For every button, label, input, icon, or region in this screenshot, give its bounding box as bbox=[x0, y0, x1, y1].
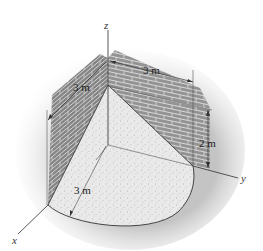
z-axis-label: z bbox=[103, 19, 109, 31]
dim-top-label: 3 m bbox=[143, 64, 160, 76]
sand-pile-diagram: z y x 3 m 3 m 2 m 3 m bbox=[0, 0, 263, 251]
x-axis-label: x bbox=[11, 234, 17, 246]
dim-2m-label: 2 m bbox=[199, 137, 216, 149]
x-axis bbox=[18, 205, 48, 234]
dim-left-label: 3 m bbox=[73, 81, 90, 93]
dim-radius-label: 3 m bbox=[74, 184, 91, 196]
y-axis-label: y bbox=[240, 172, 246, 184]
